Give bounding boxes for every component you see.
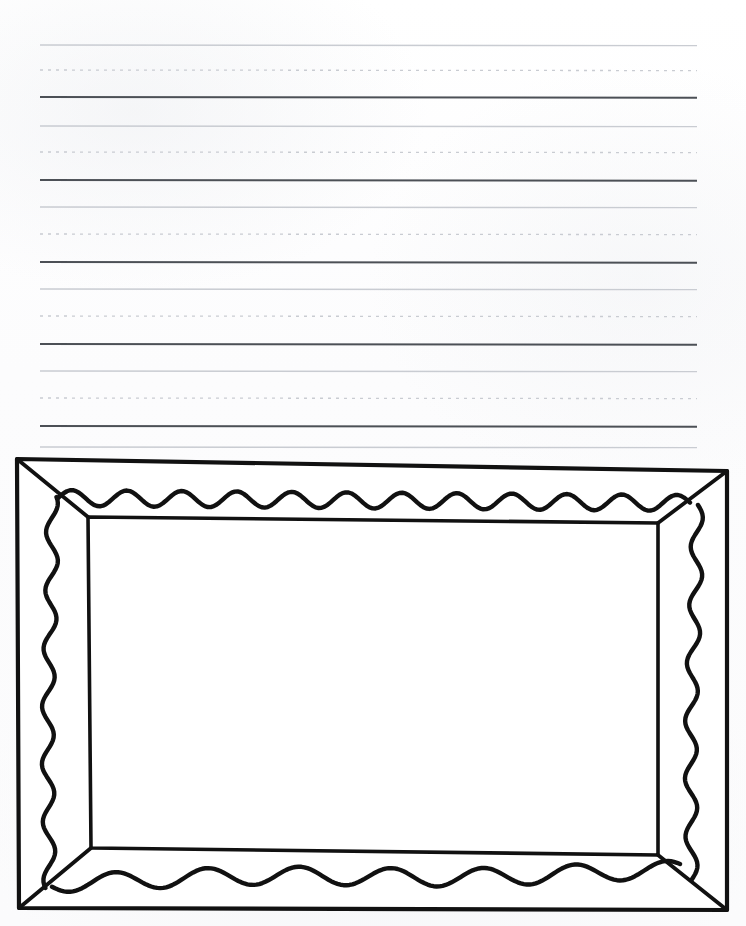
frame-geometry <box>17 459 727 910</box>
frame-fill <box>17 459 727 910</box>
frame-svg <box>0 0 746 926</box>
picture-frame-drawing <box>0 0 746 926</box>
worksheet-page <box>0 0 746 926</box>
